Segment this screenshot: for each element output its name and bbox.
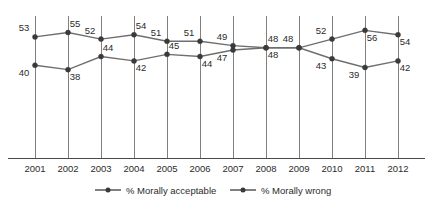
point-label: 54 [136, 20, 147, 31]
data-point [231, 43, 236, 48]
point-labels-group: 5355525451514948433942403844424544474852… [19, 18, 411, 82]
data-point [132, 32, 137, 37]
point-label: 44 [202, 58, 213, 69]
point-label: 47 [217, 52, 228, 63]
chart-canvas: 5355525451514948433942403844424544474852… [0, 0, 431, 205]
point-label: 49 [217, 31, 228, 42]
point-label: 55 [70, 18, 81, 29]
data-point [330, 37, 335, 42]
point-label: 54 [400, 36, 411, 47]
x-tick-2004: 2004 [123, 163, 144, 174]
data-point [33, 34, 38, 39]
x-tick-2010: 2010 [321, 163, 342, 174]
data-point [99, 54, 104, 59]
x-tick-2009: 2009 [288, 163, 309, 174]
point-label: 48 [268, 33, 279, 44]
legend-label: % Morally wrong [261, 185, 331, 196]
point-label: 42 [136, 62, 147, 73]
legend-marker [241, 188, 246, 193]
point-label: 39 [349, 69, 360, 80]
x-tick-2006: 2006 [189, 163, 210, 174]
x-tick-2002: 2002 [57, 163, 78, 174]
x-tick-2007: 2007 [222, 163, 243, 174]
x-tick-2008: 2008 [255, 163, 276, 174]
point-label: 42 [400, 62, 411, 73]
x-tick-2003: 2003 [90, 163, 111, 174]
x-tick-2011: 2011 [355, 163, 375, 174]
data-point [198, 39, 203, 44]
x-tick-2001: 2001 [24, 163, 45, 174]
data-point [363, 65, 368, 70]
point-label: 51 [151, 27, 162, 38]
data-point [330, 56, 335, 61]
point-label: 45 [169, 40, 180, 51]
point-label: 48 [283, 33, 294, 44]
line-chart: 5355525451514948433942403844424544474852… [0, 0, 431, 205]
x-axis-tick-labels: 2001200220032004200520062007200820092010… [24, 163, 408, 174]
point-label: 38 [70, 71, 81, 82]
point-label: 51 [184, 27, 195, 38]
point-label: 40 [19, 67, 30, 78]
x-tick-2005: 2005 [156, 163, 177, 174]
point-label: 56 [367, 32, 378, 43]
data-point [165, 52, 170, 57]
point-label: 43 [316, 60, 327, 71]
point-label: 44 [103, 42, 114, 53]
legend-label: % Morally acceptable [126, 185, 216, 196]
x-tick-2012: 2012 [387, 163, 408, 174]
data-point [297, 45, 302, 50]
point-label: 48 [268, 49, 279, 60]
data-point [99, 37, 104, 42]
point-label: 52 [316, 25, 327, 36]
data-point [66, 30, 71, 35]
legend-marker [106, 188, 111, 193]
data-point [33, 63, 38, 68]
point-label: 52 [85, 25, 96, 36]
legend: % Morally acceptable% Morally wrong [95, 185, 331, 196]
point-label: 53 [19, 22, 30, 33]
